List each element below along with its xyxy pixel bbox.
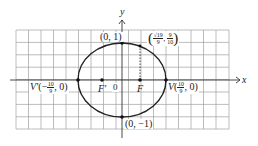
latus-point-label: (√199, 910) xyxy=(147,31,179,46)
vertex-left-prefix: (− xyxy=(38,81,47,92)
vertex-left-suffix: , 0) xyxy=(54,81,67,92)
vertex-right-label: V(109, 0) xyxy=(167,81,199,94)
top-point-label: (0, 1) xyxy=(99,32,123,42)
x-axis-label: x xyxy=(241,75,247,85)
grid xyxy=(16,30,229,129)
vertex-right-suffix: , 0) xyxy=(184,81,197,92)
vertex-left-label: V′(−109, 0) xyxy=(29,81,69,94)
focus-left-label: F′ xyxy=(97,84,107,94)
latus-x-fraction: √199 xyxy=(153,32,163,45)
origin-label: 0 xyxy=(112,83,119,92)
bottom-point-label: (0, −1) xyxy=(124,119,153,129)
point-latus xyxy=(139,45,142,48)
focus-right-label: F xyxy=(136,84,144,94)
point-focus-right xyxy=(138,78,142,82)
point-focus-left xyxy=(100,78,104,82)
y-axis-label: y xyxy=(119,7,125,17)
point-vertex-left xyxy=(76,78,80,82)
